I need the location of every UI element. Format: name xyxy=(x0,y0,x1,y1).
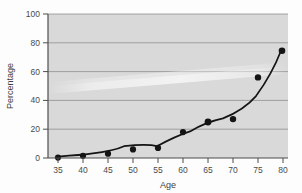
chart-figure: 0 20 40 60 80 100 35 40 45 50 55 60 65 7… xyxy=(0,0,302,193)
x-tick-label: 75 xyxy=(253,165,263,175)
y-axis-title: Percentage xyxy=(5,63,15,109)
x-tick-label: 35 xyxy=(53,165,63,175)
y-tick-label: 60 xyxy=(31,67,41,77)
y-tick-label: 100 xyxy=(26,9,40,19)
data-point xyxy=(155,145,161,151)
x-tick-label: 70 xyxy=(228,165,238,175)
x-tick-label: 60 xyxy=(178,165,188,175)
data-point xyxy=(255,74,261,80)
data-point xyxy=(180,129,186,135)
x-tick-label: 40 xyxy=(78,165,88,175)
y-tick-label: 20 xyxy=(31,124,41,134)
y-tick-label: 0 xyxy=(35,153,40,163)
y-tick-label: 80 xyxy=(31,38,41,48)
x-tick-label: 80 xyxy=(278,165,288,175)
x-tick-label: 65 xyxy=(203,165,213,175)
y-tick-label: 40 xyxy=(31,95,41,105)
data-point xyxy=(205,119,212,126)
data-point xyxy=(105,151,111,157)
scatter-plot-svg: 0 20 40 60 80 100 35 40 45 50 55 60 65 7… xyxy=(0,0,302,193)
data-point xyxy=(279,47,286,54)
data-point xyxy=(130,146,136,152)
x-tick-label: 50 xyxy=(128,165,138,175)
x-axis-title: Age xyxy=(160,180,176,190)
x-tick-label: 55 xyxy=(153,165,163,175)
data-point xyxy=(230,116,236,122)
x-tick-label: 45 xyxy=(103,165,113,175)
